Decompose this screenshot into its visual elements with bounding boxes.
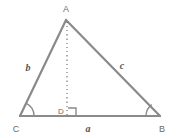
vertex-label-a: A — [63, 4, 69, 14]
vertex-label-c: C — [13, 124, 20, 134]
side-label-a: a — [86, 123, 91, 134]
triangle-diagram: A B C D a b c — [0, 0, 176, 138]
angle-arc-c — [26, 103, 34, 116]
vertex-label-b: B — [159, 124, 165, 134]
side-label-b: b — [26, 62, 31, 73]
vertex-label-d: D — [58, 107, 64, 116]
diagram-canvas: A B C D a b c — [0, 0, 176, 138]
side-c-line — [66, 20, 160, 116]
side-label-c: c — [120, 60, 125, 71]
right-angle-marker — [68, 108, 76, 116]
